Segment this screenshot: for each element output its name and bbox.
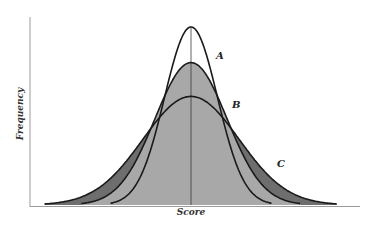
curve-label-b: B	[231, 99, 240, 110]
curve-label-c: C	[277, 158, 285, 169]
normal-distributions-chart: A B C Score Frequency	[0, 0, 376, 226]
curves-group	[45, 27, 338, 205]
curve-label-a: A	[215, 50, 224, 61]
x-axis-label: Score	[177, 207, 206, 217]
y-axis-label: Frequency	[15, 87, 25, 141]
